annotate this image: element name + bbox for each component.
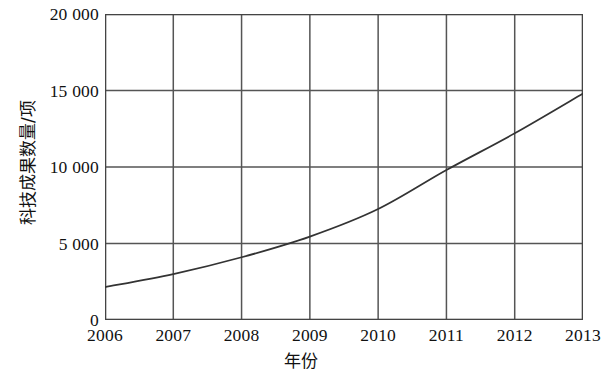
horizontal-gridlines	[105, 91, 583, 244]
y-axis-tick-labels: 0 5 000 10 000 15 000 20 000	[0, 0, 99, 375]
y-tick-label: 10 000	[3, 158, 99, 176]
plot-svg	[105, 14, 583, 320]
x-tick-label: 2013	[538, 325, 602, 345]
y-tick-label: 5 000	[3, 235, 99, 253]
x-axis-label: 年份	[0, 347, 602, 372]
y-tick-label: 20 000	[3, 5, 99, 23]
y-tick-label: 15 000	[3, 82, 99, 100]
chart-figure: 科技成果数量/项 0 5 000 10 000 15 000 20 000 20…	[0, 0, 602, 375]
data-series-line	[105, 94, 583, 288]
plot-area	[105, 14, 583, 320]
